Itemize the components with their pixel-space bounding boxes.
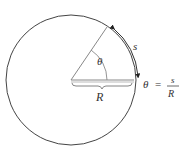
theta-label: θ: [97, 55, 103, 67]
arc-length-label: s: [133, 40, 137, 52]
radius-label: R: [95, 90, 104, 104]
formula-theta: θ: [143, 78, 149, 90]
arc-length-arrow: [113, 28, 138, 76]
angle-line: [71, 27, 107, 80]
radius-brace: [72, 83, 132, 89]
formula: θ = s R: [143, 75, 179, 99]
diagram-canvas: θ s R θ = s R: [0, 0, 188, 152]
arc-length-diagram: θ s R θ = s R: [0, 0, 188, 152]
formula-equals: =: [155, 78, 161, 90]
formula-denominator: R: [167, 88, 174, 99]
formula-numerator: s: [171, 75, 175, 85]
